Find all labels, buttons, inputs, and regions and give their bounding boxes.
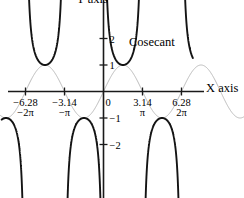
plot-canvas: −6.28−2π−3.14−π03.14π6.282π21−1−2 X axis…: [0, 0, 244, 198]
cosecant-branch-path: [2, 118, 23, 198]
cosecant-branch-path: [107, 0, 140, 65]
cosecant-branch-path: [185, 0, 193, 58]
cosecant-plot-figure: −6.28−2π−3.14−π03.14π6.282π21−1−2 X axis…: [0, 0, 244, 198]
x-tick-sublabel: −π: [59, 107, 71, 118]
y-tick-label: −2: [110, 140, 121, 151]
cosecant-branch-path: [146, 118, 179, 198]
x-tick-sublabel: 2π: [176, 107, 187, 118]
x-axis-label: X axis: [206, 81, 238, 95]
cosecant-curve-label: Cosecant: [129, 35, 175, 49]
cosecant-branch-path: [67, 118, 100, 198]
y-tick-label: 1: [110, 60, 115, 71]
x-tick-sublabel: −2π: [17, 107, 34, 118]
x-tick-sublabel: π: [140, 107, 146, 118]
x-tick-label: 0: [106, 97, 111, 108]
y-tick-label: −1: [110, 113, 121, 124]
y-tick-label: 2: [110, 34, 115, 45]
cosecant-branch-path: [28, 0, 61, 65]
y-axis-label: Y axis: [76, 0, 108, 6]
